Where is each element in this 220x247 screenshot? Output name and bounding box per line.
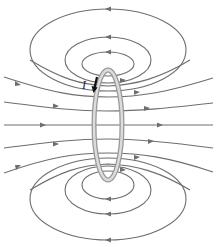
bottom-field-loop-inner: [82, 171, 134, 199]
top-field-loops: [30, 7, 186, 92]
right-arrow-5-icon: [134, 155, 140, 160]
bottom-middle-arrow-icon: [105, 212, 111, 217]
current-indicator: I: [81, 77, 98, 93]
top-outer-arrow-icon: [105, 7, 111, 12]
field-line-4: [4, 139, 213, 148]
right-arrow-6-icon: [120, 78, 126, 83]
bottom-field-loop-middle: [65, 166, 151, 214]
right-arrow-2-icon: [144, 106, 150, 111]
top-field-loop-outer: [30, 9, 186, 91]
field-line-2: [4, 102, 213, 111]
left-arrow-3-icon: [40, 123, 46, 128]
right-arrow-1-icon: [134, 90, 140, 95]
field-line-1: [4, 77, 213, 97]
top-middle-arrow-icon: [105, 35, 111, 40]
bottom-outer-arrow-icon: [105, 238, 111, 243]
bottom-inner-arrow-icon: [105, 197, 111, 202]
bottom-field-loops: [30, 158, 186, 243]
right-arrow-3-icon: [157, 123, 163, 128]
top-inner-arrow-icon: [105, 50, 111, 55]
field-line-5: [4, 153, 213, 173]
current-loop-field-diagram: I: [0, 0, 220, 247]
